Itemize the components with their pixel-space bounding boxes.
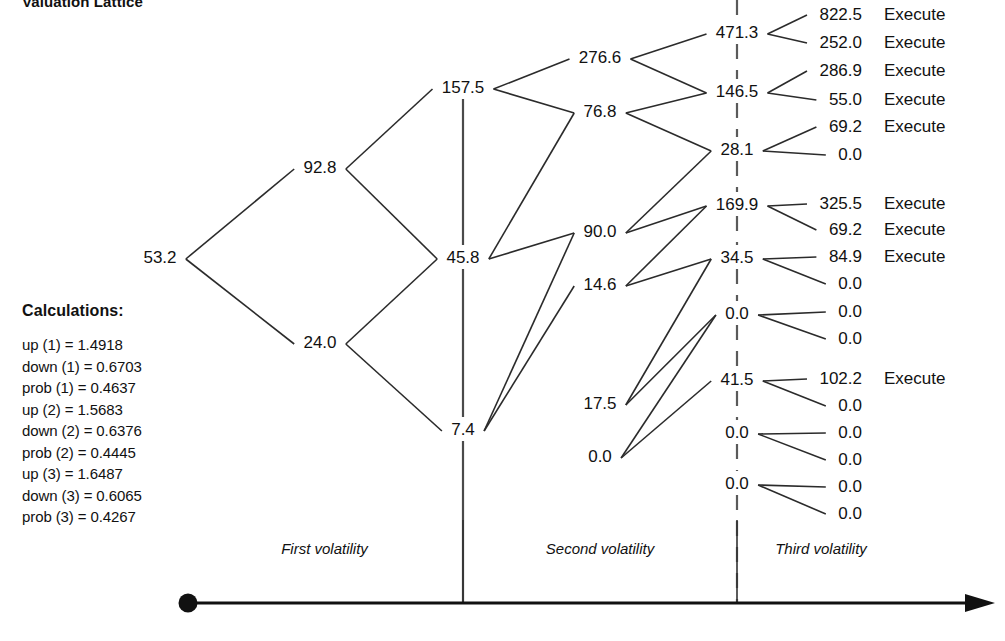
- calculation-line: down (2) = 0.6376: [22, 420, 252, 442]
- terminal-edge: [763, 151, 826, 155]
- terminal-decision-tag: Execute: [884, 61, 945, 80]
- lattice-edge: [346, 169, 437, 259]
- lattice-node-value: 276.6: [579, 48, 622, 67]
- lattice-node-value: 169.9: [716, 195, 759, 214]
- terminal-edge: [758, 485, 826, 514]
- calculations-panel: Calculations: up (1) = 1.4918down (1) = …: [22, 302, 252, 528]
- phase-label: First volatility: [281, 540, 369, 557]
- terminal-value: 55.0: [829, 90, 862, 109]
- phase-label: Third volatility: [775, 540, 868, 557]
- lattice-node-value: 0.0: [725, 423, 749, 442]
- terminal-value: 102.2: [819, 369, 862, 388]
- lattice-edge: [346, 89, 433, 169]
- lattice-node-value: 24.0: [303, 333, 336, 352]
- terminal-edge: [763, 127, 817, 151]
- lattice-edge: [621, 381, 711, 458]
- right-arrowhead: [965, 594, 995, 612]
- lattice-edge: [346, 344, 442, 431]
- terminal-edge: [768, 206, 817, 230]
- calculations-list: up (1) = 1.4918down (1) = 0.6703prob (1)…: [22, 334, 252, 528]
- calculations-heading: Calculations:: [22, 302, 252, 320]
- lattice-node-value: 14.6: [583, 275, 616, 294]
- terminal-value: 0.0: [838, 396, 862, 415]
- terminal-edge: [763, 259, 826, 284]
- calculation-line: prob (3) = 0.4267: [22, 506, 252, 528]
- lattice-edge: [494, 89, 575, 113]
- lattice-edge: [186, 169, 294, 259]
- terminal-edge: [758, 434, 826, 460]
- valuation-lattice-figure: Valuation Lattice 53.292.824.0157.545.87…: [0, 0, 1005, 641]
- lattice-node-value: 41.5: [720, 370, 753, 389]
- terminal-decision-tag: Execute: [884, 220, 945, 239]
- lattice-node-value: 53.2: [143, 248, 176, 267]
- calculation-line: prob (1) = 0.4637: [22, 377, 252, 399]
- terminal-edge: [763, 379, 807, 381]
- terminal-edge: [768, 93, 817, 100]
- terminal-value: 286.9: [819, 61, 862, 80]
- lattice-edge: [484, 286, 574, 431]
- terminal-value: 0.0: [838, 274, 862, 293]
- terminal-edge: [768, 34, 808, 43]
- terminal-value: 0.0: [838, 302, 862, 321]
- terminal-edge: [763, 257, 817, 259]
- terminal-value: 0.0: [838, 145, 862, 164]
- terminal-value: 69.2: [829, 220, 862, 239]
- lattice-edges: [186, 34, 716, 458]
- terminal-value: 84.9: [829, 247, 862, 266]
- lattice-node-value: 157.5: [442, 78, 485, 97]
- lattice-node-value: 471.3: [716, 23, 759, 42]
- lattice-node-value: 28.1: [720, 140, 753, 159]
- terminal-value: 0.0: [838, 504, 862, 523]
- lattice-edge: [631, 59, 707, 93]
- lattice-node-value: 34.5: [720, 248, 753, 267]
- terminal-value: 0.0: [838, 423, 862, 442]
- terminal-value: 69.2: [829, 117, 862, 136]
- lattice-node-value: 76.8: [583, 102, 616, 121]
- lattice-node-value: 0.0: [588, 447, 612, 466]
- terminal-edge: [763, 381, 826, 406]
- terminal-edge: [758, 485, 826, 487]
- terminal-value: 0.0: [838, 477, 862, 496]
- lattice-node-value: 146.5: [716, 82, 759, 101]
- lattice-edge: [494, 59, 570, 89]
- lattice-edge: [631, 34, 707, 59]
- calculation-line: up (2) = 1.5683: [22, 399, 252, 421]
- lattice-edge: [626, 206, 707, 233]
- calculation-line: up (1) = 1.4918: [22, 334, 252, 356]
- terminal-value: 0.0: [838, 450, 862, 469]
- origin-dot: [179, 594, 198, 613]
- terminal-decision-tag: Execute: [884, 5, 945, 24]
- terminal-decision-tag: Execute: [884, 33, 945, 52]
- lattice-node-value: 0.0: [725, 474, 749, 493]
- phase-label: Second volatility: [546, 540, 656, 557]
- lattice-terminals: 822.5Execute252.0Execute286.9Execute55.0…: [758, 5, 945, 523]
- terminal-decision-tag: Execute: [884, 194, 945, 213]
- terminal-value: 252.0: [819, 33, 862, 52]
- lattice-edge: [346, 259, 437, 344]
- lattice-edge: [626, 113, 711, 151]
- lattice-node-value: 90.0: [583, 222, 616, 241]
- calculation-line: down (3) = 0.6065: [22, 485, 252, 507]
- lattice-edge: [621, 315, 716, 458]
- calculation-line: down (1) = 0.6703: [22, 356, 252, 378]
- calculation-line: prob (2) = 0.4445: [22, 442, 252, 464]
- lattice-node-value: 45.8: [446, 248, 479, 267]
- lattice-edge: [626, 93, 707, 113]
- terminal-edge: [758, 315, 826, 339]
- lattice-edge: [484, 233, 574, 431]
- terminal-value: 325.5: [819, 194, 862, 213]
- lattice-edge: [626, 151, 711, 233]
- terminal-edge: [758, 433, 826, 434]
- terminal-decision-tag: Execute: [884, 90, 945, 109]
- lattice-node-value: 7.4: [451, 420, 475, 439]
- terminal-decision-tag: Execute: [884, 117, 945, 136]
- terminal-decision-tag: Execute: [884, 369, 945, 388]
- lattice-node-value: 17.5: [583, 394, 616, 413]
- terminal-edge: [758, 312, 826, 315]
- terminal-edge: [768, 71, 808, 93]
- terminal-value: 822.5: [819, 5, 862, 24]
- terminal-decision-tag: Execute: [884, 247, 945, 266]
- lattice-node-value: 92.8: [303, 158, 336, 177]
- terminal-edge: [768, 15, 808, 34]
- lattice-node-value: 0.0: [725, 304, 749, 323]
